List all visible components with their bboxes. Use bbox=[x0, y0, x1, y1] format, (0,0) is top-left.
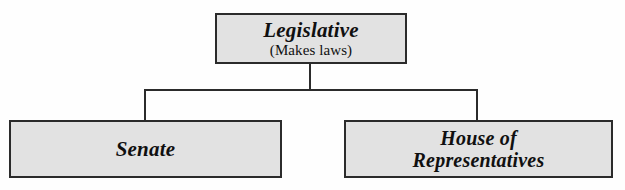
node-senate[interactable]: Senate bbox=[9, 120, 282, 178]
node-legislative[interactable]: Legislative (Makes laws) bbox=[215, 13, 407, 64]
node-house-title-line-2: Representatives bbox=[413, 149, 545, 171]
node-house-of-representatives[interactable]: House of Representatives bbox=[344, 120, 613, 178]
node-house-title-line-1: House of bbox=[440, 127, 517, 149]
connector-drop-senate bbox=[144, 89, 146, 121]
node-legislative-title: Legislative bbox=[263, 19, 359, 42]
node-senate-title: Senate bbox=[116, 138, 176, 161]
connector-root-stem bbox=[309, 64, 311, 91]
connector-drop-house bbox=[476, 89, 478, 121]
connector-horizontal-bus bbox=[144, 89, 478, 91]
legislative-branch-diagram: Legislative (Makes laws) Senate House of… bbox=[0, 0, 625, 190]
node-legislative-subtitle: (Makes laws) bbox=[270, 42, 352, 58]
